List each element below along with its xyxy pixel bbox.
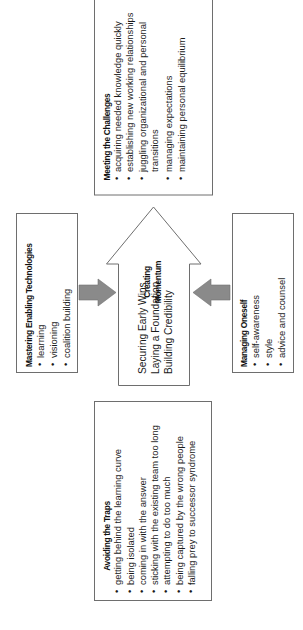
challenges-item-continued: transitions	[149, 129, 160, 172]
challenges-item: juggling organizational and personal	[137, 22, 148, 173]
center-line: Building Credibility	[163, 289, 174, 374]
traps-box: Avoiding the Traps • getting behind the …	[95, 402, 212, 601]
challenges-bullet: •	[136, 177, 147, 180]
momentum-diagram: Meeting the Challenges • acquiring neede…	[0, 0, 303, 630]
challenges-bullet: •	[111, 177, 122, 180]
traps-item: being isolated	[125, 527, 136, 585]
technologies-item: coalition building	[61, 289, 72, 358]
technologies-bullet: •	[60, 363, 71, 366]
challenges-item: managing expectations	[163, 75, 174, 172]
center-line: Securing Early Wins	[137, 282, 148, 374]
traps-bullet: •	[185, 590, 196, 593]
center-line: Laying a Foundation	[150, 282, 161, 374]
traps-item: falling prey to successor syndrome	[186, 441, 197, 585]
challenges-box: Meeting the Challenges • acquiring neede…	[95, 0, 213, 195]
oneself-item: self-awareness	[250, 295, 261, 358]
challenges-title: Meeting the Challenges	[102, 93, 112, 181]
traps-bullet: •	[124, 590, 135, 593]
technologies-bullet: •	[34, 363, 45, 366]
traps-bullet: •	[111, 590, 122, 593]
technologies-bullet: •	[47, 363, 58, 366]
challenges-bullet: •	[123, 177, 134, 180]
oneself-bullet: •	[249, 363, 260, 366]
traps-bullet: •	[136, 590, 147, 593]
challenges-bullet: •	[175, 177, 186, 180]
challenges-bullet: •	[162, 177, 173, 180]
oneself-bullet: •	[275, 363, 286, 366]
creating-momentum-arrow: Creating Momentum Securing Early Wins La…	[107, 207, 202, 386]
traps-item: attempting to do too much	[161, 477, 172, 585]
technologies-item: visioning	[48, 322, 59, 358]
technologies-item: learning	[35, 325, 46, 358]
left-arrow-icon	[193, 279, 230, 306]
challenges-item: acquiring needed knowledge quickly	[112, 21, 123, 172]
traps-bullet: •	[148, 590, 159, 593]
traps-bullet: •	[173, 590, 184, 593]
traps-item: sticking with the existing team too long	[149, 425, 160, 585]
challenges-item: maintaining personal equilibrium	[176, 37, 187, 172]
right-arrow-icon	[79, 279, 116, 306]
traps-bullet: •	[160, 590, 171, 593]
traps-item: getting behind the learning curve	[112, 449, 123, 585]
traps-item: being captured by the wrong people	[174, 436, 185, 585]
challenges-item: establishing new working relationships	[124, 12, 135, 172]
oneself-bullet: •	[262, 363, 273, 366]
traps-title: Avoiding the Traps	[102, 501, 112, 571]
oneself-item: style	[263, 339, 274, 358]
oneself-item: advice and counsel	[276, 278, 287, 358]
oneself-box: Managing Oneself • self-awareness • styl…	[233, 214, 294, 373]
technologies-box: Mastering Enabling Technologies • learni…	[17, 214, 78, 373]
technologies-title: Mastering Enabling Technologies	[24, 243, 34, 367]
traps-item: coming in with the answer	[137, 477, 148, 585]
oneself-title: Managing Oneself	[239, 299, 249, 367]
